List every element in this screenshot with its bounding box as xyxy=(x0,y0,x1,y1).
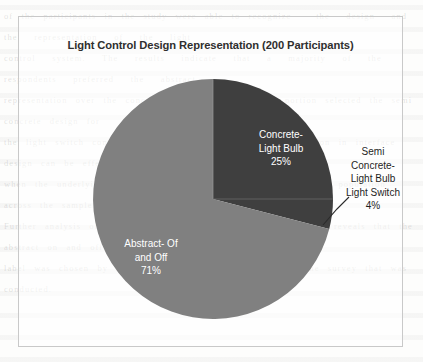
slice-label-percent: 25% xyxy=(235,155,327,169)
slice-label-line: Concrete- xyxy=(235,128,327,142)
slice-label-semi-concrete-light-bulb-light-switch: Semi Concrete- Light Bulb Light Switch 4… xyxy=(325,145,421,213)
slice-label-line: Semi xyxy=(325,145,421,159)
slice-label-concrete-light-bulb: Concrete- Light Bulb 25% xyxy=(235,128,327,169)
slice-label-percent: 4% xyxy=(325,199,421,213)
slice-label-line: Abstract- Of xyxy=(101,237,201,251)
slice-label-line: Light Bulb xyxy=(325,172,421,186)
slice-label-line: Concrete- xyxy=(325,159,421,173)
slice-label-line: Light Switch xyxy=(325,186,421,200)
slice-label-abstract-of-and-off: Abstract- Of and Off 71% xyxy=(101,237,201,278)
slice-label-line: Light Bulb xyxy=(235,142,327,156)
chart-frame: Light Control Design Representation (200… xyxy=(18,16,403,347)
slice-label-percent: 71% xyxy=(101,264,201,278)
slice-label-line: and Off xyxy=(101,251,201,265)
